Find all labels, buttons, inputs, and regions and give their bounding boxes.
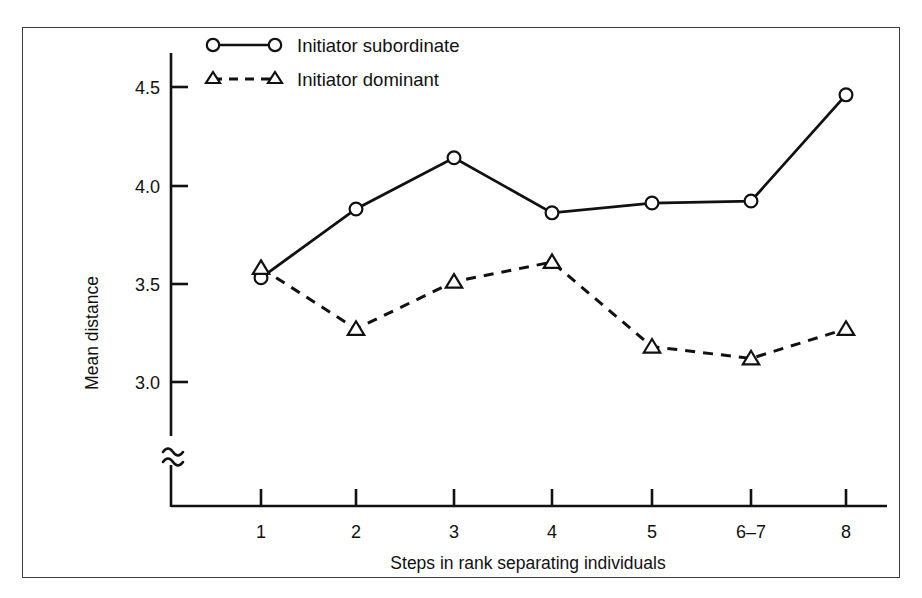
data-point-circle bbox=[448, 151, 461, 164]
axis-break-icon bbox=[163, 449, 183, 466]
legend-entry-dominant: Initiator dominant bbox=[206, 69, 439, 90]
figure-frame: 4.5 4.0 3.5 3.0 Mean distance 1 2 3 4 5 … bbox=[22, 27, 900, 578]
data-point-circle bbox=[350, 203, 363, 216]
data-point-circle bbox=[546, 206, 559, 219]
x-tick-label-0: 1 bbox=[256, 522, 266, 542]
x-axis-tick-labels: 1 2 3 4 5 6–7 8 bbox=[256, 522, 851, 542]
data-point-circle bbox=[840, 88, 853, 101]
data-point-triangle bbox=[253, 260, 269, 274]
data-point-circle bbox=[646, 197, 659, 210]
x-tick-label-4: 5 bbox=[647, 522, 657, 542]
line-chart: 4.5 4.0 3.5 3.0 Mean distance 1 2 3 4 5 … bbox=[23, 28, 901, 579]
legend-triangle-marker-left bbox=[206, 72, 220, 83]
legend-triangle-marker-right bbox=[268, 72, 282, 83]
series-line bbox=[261, 95, 846, 278]
legend-label-subordinate: Initiator subordinate bbox=[297, 35, 460, 56]
y-axis-ticks bbox=[171, 87, 188, 382]
x-tick-label-5: 6–7 bbox=[736, 522, 766, 542]
legend-circle-marker-left bbox=[207, 39, 219, 51]
y-tick-label-0: 3.0 bbox=[135, 373, 160, 393]
data-point-circle bbox=[745, 195, 758, 208]
legend: Initiator subordinate Initiator dominant bbox=[206, 35, 460, 90]
y-tick-label-1: 3.5 bbox=[135, 275, 160, 295]
legend-circle-marker-right bbox=[269, 39, 281, 51]
x-axis-title: Steps in rank separating individuals bbox=[390, 553, 666, 573]
series-dominant bbox=[253, 254, 854, 364]
x-tick-label-6: 8 bbox=[841, 522, 851, 542]
y-axis-title: Mean distance bbox=[82, 276, 102, 390]
x-axis-ticks bbox=[261, 489, 846, 506]
x-tick-label-2: 3 bbox=[449, 522, 459, 542]
y-tick-label-3: 4.5 bbox=[135, 78, 160, 98]
y-axis-tick-labels: 4.5 4.0 3.5 3.0 bbox=[135, 78, 160, 393]
data-point-triangle bbox=[838, 321, 854, 335]
x-tick-label-3: 4 bbox=[547, 522, 557, 542]
series-layer bbox=[253, 88, 854, 364]
data-point-triangle bbox=[446, 274, 462, 288]
data-point-triangle bbox=[348, 321, 364, 335]
data-point-triangle bbox=[644, 339, 660, 353]
legend-label-dominant: Initiator dominant bbox=[297, 69, 439, 90]
y-tick-label-2: 4.0 bbox=[135, 177, 160, 197]
data-point-triangle bbox=[544, 254, 560, 268]
legend-entry-subordinate: Initiator subordinate bbox=[207, 35, 460, 56]
x-tick-label-1: 2 bbox=[351, 522, 361, 542]
series-line bbox=[261, 262, 846, 358]
